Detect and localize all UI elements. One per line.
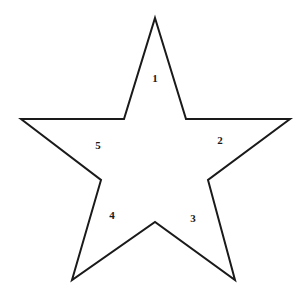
star-point-label-2: 2 [217, 135, 223, 146]
star-point-label-1: 1 [152, 73, 158, 84]
star-point-label-3: 3 [190, 213, 196, 224]
star-point-label-5: 5 [95, 140, 101, 151]
star-point-label-4: 4 [109, 210, 115, 221]
star-figure-canvas: 1 2 3 4 5 [0, 0, 304, 299]
star-outline-svg [0, 0, 304, 299]
